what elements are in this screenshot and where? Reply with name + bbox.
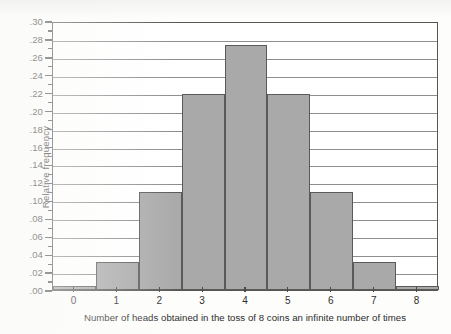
y-tick-label: .20 (29, 107, 43, 117)
y-tick-major (45, 75, 52, 76)
y-tick-label: .02 (29, 268, 43, 278)
y-tick-label: .14 (29, 161, 43, 171)
y-tick-label: .04 (29, 250, 43, 260)
x-tick-label: 6 (328, 296, 334, 306)
x-tick-label: 5 (285, 296, 291, 306)
x-tick-label: 0 (71, 296, 77, 306)
y-tick-major (45, 237, 52, 238)
x-tick (330, 287, 331, 292)
y-tick-major (45, 93, 52, 94)
bar (310, 192, 353, 290)
y-tick-major (45, 39, 52, 40)
x-tick (287, 287, 288, 292)
y-tick-label: .00 (29, 286, 43, 296)
y-tick-label: .22 (29, 89, 43, 99)
y-tick-major (45, 255, 52, 256)
y-tick-label: .10 (29, 197, 43, 207)
x-tick (373, 287, 374, 292)
y-tick-major (45, 183, 52, 184)
y-tick-major (45, 201, 52, 202)
y-tick-label: .30 (29, 17, 43, 27)
bar-series (53, 23, 437, 290)
x-axis: 012345678 (52, 291, 438, 331)
y-tick-major (45, 219, 52, 220)
y-tick-major (45, 165, 52, 166)
x-tick-label: 8 (414, 296, 420, 306)
plot-area (52, 22, 438, 291)
y-tick-label: .16 (29, 143, 43, 153)
scanned-page: Relative frequency .00.02.04.06.08.10.12… (0, 0, 451, 334)
bar (396, 286, 439, 290)
x-tick (159, 287, 160, 292)
y-axis: Relative frequency .00.02.04.06.08.10.12… (0, 0, 52, 334)
x-tick-label: 1 (114, 296, 120, 306)
bar (267, 94, 310, 290)
x-tick-label: 2 (156, 296, 162, 306)
y-tick-label: .24 (29, 71, 43, 81)
bar (353, 262, 396, 290)
bar (53, 286, 96, 290)
y-tick-label: .18 (29, 125, 43, 135)
x-axis-title: Number of heads obtained in the toss of … (52, 312, 438, 323)
y-tick-major (45, 290, 52, 291)
bar (139, 192, 182, 290)
y-tick-label: .28 (29, 35, 43, 45)
y-tick-major (45, 21, 52, 22)
histogram-figure: Relative frequency .00.02.04.06.08.10.12… (0, 0, 451, 334)
x-tick (416, 287, 417, 292)
y-tick-major (45, 111, 52, 112)
bar (225, 45, 268, 290)
y-tick-major (45, 147, 52, 148)
x-tick (202, 287, 203, 292)
x-tick (244, 287, 245, 292)
y-tick-label: .06 (29, 232, 43, 242)
x-tick (73, 287, 74, 292)
bar (96, 262, 139, 290)
y-tick-label: .12 (29, 179, 43, 189)
y-tick-label: .08 (29, 215, 43, 225)
y-tick-major (45, 272, 52, 273)
x-tick (116, 287, 117, 292)
x-tick-label: 7 (371, 296, 377, 306)
y-tick-major (45, 57, 52, 58)
y-tick-label: .26 (29, 53, 43, 63)
y-tick-major (45, 129, 52, 130)
x-tick-label: 4 (242, 296, 248, 306)
x-tick-label: 3 (199, 296, 205, 306)
bar (182, 94, 225, 290)
